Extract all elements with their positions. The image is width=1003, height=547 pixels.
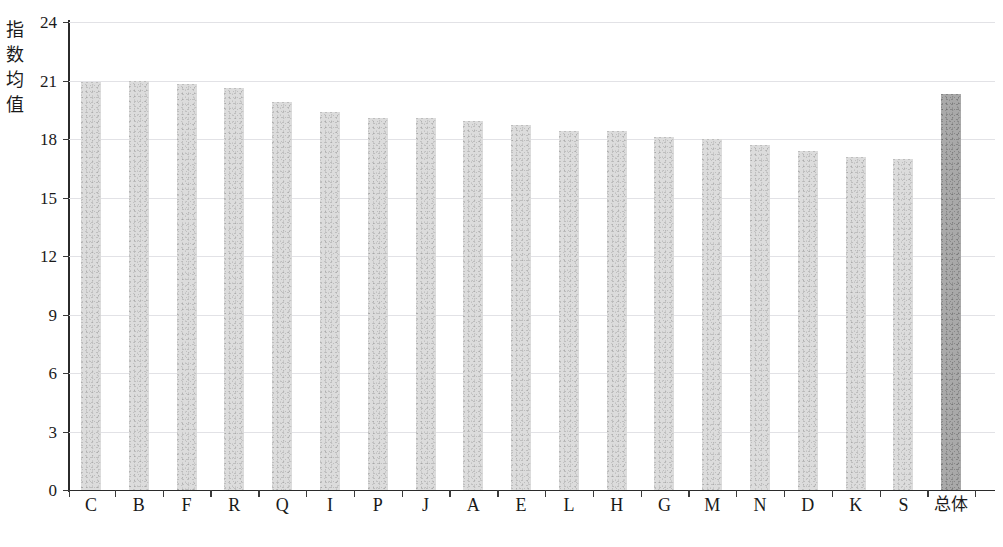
x-tick-mark	[354, 490, 355, 497]
bar-S	[893, 159, 913, 491]
x-tick-mark	[927, 490, 928, 497]
bar-R	[224, 88, 244, 490]
x-tick-label-L: L	[563, 494, 574, 516]
y-tick-label: 15	[17, 189, 57, 206]
bar-B	[129, 81, 149, 491]
bar-M	[702, 139, 722, 490]
y-tick-mark	[63, 432, 69, 433]
x-tick-label-R: R	[228, 494, 240, 516]
y-tick-label: 0	[17, 482, 57, 499]
bar-chart: 指数均值 03691215182124 CBFRQIPJAELHGMNDKS总体	[0, 0, 1003, 547]
x-tick-label-D: D	[801, 494, 814, 516]
y-axis-title: 指数均值	[2, 18, 28, 118]
y-tick-label: 3	[17, 423, 57, 440]
x-tick-label-P: P	[373, 494, 383, 516]
y-tick-label: 12	[17, 248, 57, 265]
x-tick-mark	[497, 490, 498, 497]
bar-A	[463, 121, 483, 490]
bar-F	[177, 84, 197, 490]
x-tick-mark	[880, 490, 881, 497]
x-tick-label-M: M	[704, 494, 720, 516]
bar-K	[846, 157, 866, 490]
x-tick-label-F: F	[182, 494, 192, 516]
x-tick-mark	[163, 490, 164, 497]
bar-G	[654, 137, 674, 490]
x-tick-label-Q: Q	[276, 494, 289, 516]
x-tick-label-E: E	[516, 494, 527, 516]
x-tick-mark	[449, 490, 450, 497]
x-tick-mark	[69, 490, 70, 497]
x-tick-label-I: I	[327, 494, 333, 516]
y-tick-mark	[63, 315, 69, 316]
y-tick-label: 24	[17, 14, 57, 31]
x-tick-mark	[258, 490, 259, 497]
x-tick-mark	[832, 490, 833, 497]
x-tick-mark	[593, 490, 594, 497]
x-tick-label-J: J	[422, 494, 429, 516]
x-tick-mark	[688, 490, 689, 497]
x-tick-mark	[736, 490, 737, 497]
y-tick-mark	[63, 81, 69, 82]
bar-H	[607, 131, 627, 490]
x-tick-label-总体: 总体	[934, 494, 968, 516]
x-tick-label-B: B	[133, 494, 145, 516]
y-tick-label: 9	[17, 306, 57, 323]
bar-Q	[272, 102, 292, 490]
x-tick-label-N: N	[754, 494, 767, 516]
bar-L	[559, 131, 579, 490]
bar-N	[750, 145, 770, 490]
bar-I	[320, 112, 340, 490]
x-tick-mark	[784, 490, 785, 497]
y-tick-mark	[63, 373, 69, 374]
x-tick-mark	[975, 490, 976, 497]
x-tick-mark	[115, 490, 116, 497]
bar-C	[81, 82, 101, 490]
bar-P	[368, 118, 388, 490]
y-tick-label: 18	[17, 131, 57, 148]
x-tick-mark	[306, 490, 307, 497]
bar-总体	[941, 94, 961, 490]
x-tick-mark	[210, 490, 211, 497]
gridline	[69, 81, 995, 82]
x-tick-label-G: G	[658, 494, 671, 516]
gridline	[69, 139, 995, 140]
y-tick-label: 6	[17, 365, 57, 382]
x-tick-label-K: K	[849, 494, 862, 516]
y-tick-label: 21	[17, 72, 57, 89]
plot-area: 03691215182124	[69, 22, 995, 490]
y-tick-mark	[63, 256, 69, 257]
x-tick-mark	[402, 490, 403, 497]
bar-D	[798, 151, 818, 490]
y-tick-mark	[63, 198, 69, 199]
bar-E	[511, 125, 531, 490]
y-tick-mark	[63, 139, 69, 140]
x-tick-label-S: S	[898, 494, 908, 516]
y-tick-mark	[63, 22, 69, 23]
gridline	[69, 22, 995, 23]
x-tick-label-H: H	[610, 494, 623, 516]
x-tick-label-C: C	[85, 494, 97, 516]
x-tick-mark	[641, 490, 642, 497]
bar-J	[416, 118, 436, 490]
x-tick-label-A: A	[467, 494, 480, 516]
x-tick-mark	[545, 490, 546, 497]
